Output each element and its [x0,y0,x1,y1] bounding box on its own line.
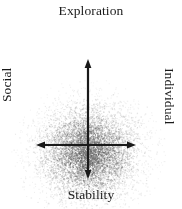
value-map-figure: Exploration Stability Social Individual [0,0,182,209]
axis-label-social: Social [0,68,14,104]
scatter-point-cloud [0,0,182,209]
axis-label-stability: Stability [0,188,182,202]
scatter-canvas [0,0,182,209]
axis-label-individual: Individual [163,68,177,125]
vertical-axis [86,59,90,179]
axis-label-exploration: Exploration [0,4,182,18]
horizontal-axis [36,143,136,147]
